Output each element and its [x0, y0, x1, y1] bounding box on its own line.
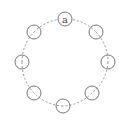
edge-n5-n6 [22, 62, 34, 93]
node-a: a [58, 12, 72, 26]
node-n1 [89, 25, 103, 39]
node-label: a [62, 14, 68, 25]
edge-n3-n4 [63, 93, 92, 106]
ring-nodes: a [15, 12, 115, 113]
edge-n4-n5 [34, 93, 63, 106]
ring-edges [22, 19, 108, 106]
ring-diagram: a [0, 0, 119, 122]
node-circle [89, 25, 103, 39]
edge-n2-n3 [92, 62, 108, 93]
